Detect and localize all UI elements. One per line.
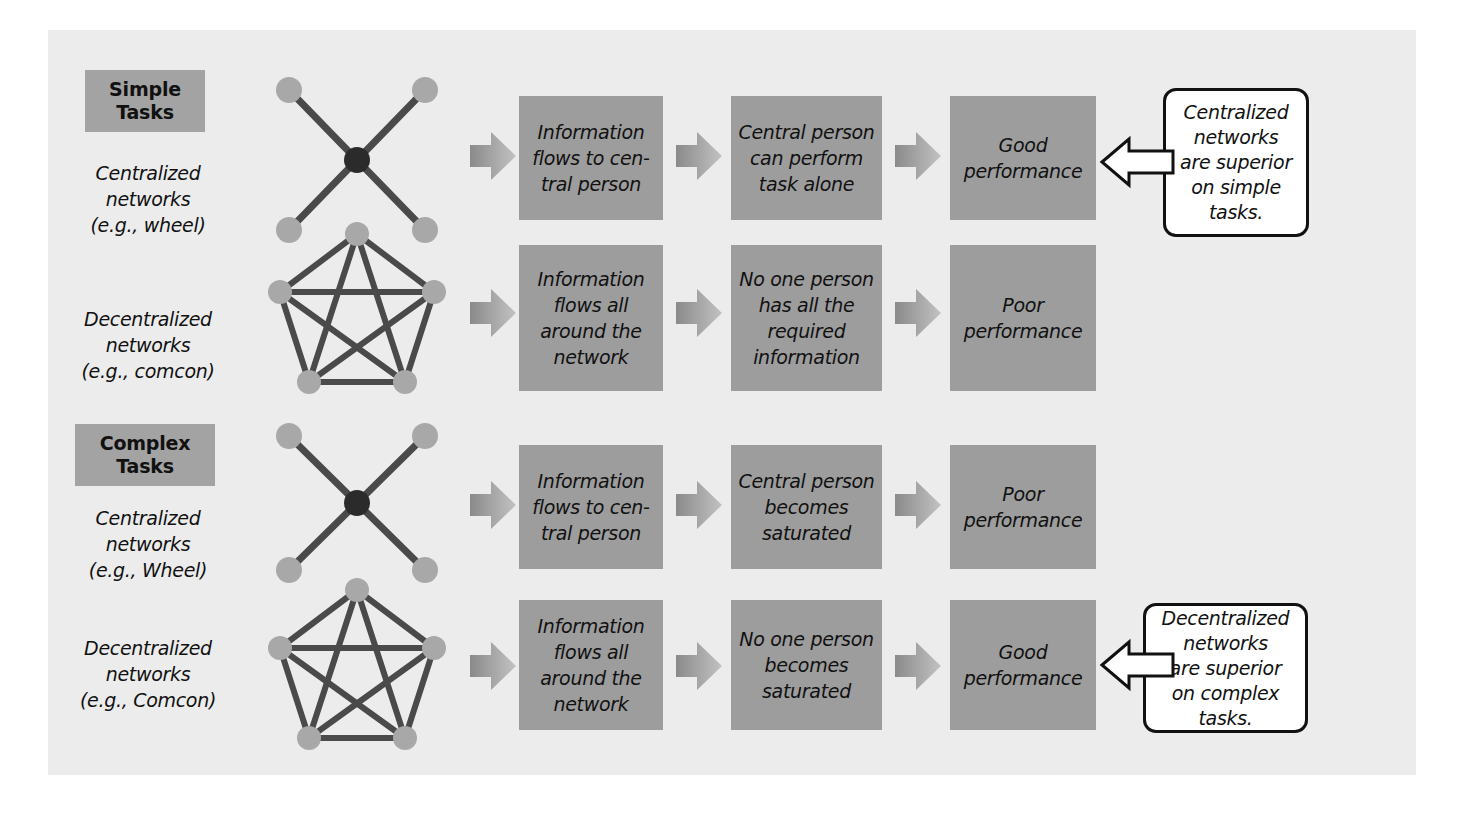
process-box-r3-s1-l1: Information bbox=[525, 468, 657, 494]
process-box-r2-s1-l4: network bbox=[525, 344, 657, 370]
process-box-r2-s3-l2: performance bbox=[956, 318, 1090, 344]
process-box-r1-s1-l3: tral person bbox=[525, 171, 657, 197]
process-box-r4-s1-l1: Information bbox=[525, 613, 657, 639]
process-box-r3-s3: Poor performance bbox=[950, 445, 1096, 569]
badge-simple-tasks-line1: Simple bbox=[109, 78, 181, 101]
process-box-r1-s2-l3: task alone bbox=[737, 171, 876, 197]
chevron-right-arrow-icon bbox=[674, 285, 724, 341]
chevron-right-arrow-icon bbox=[468, 285, 518, 341]
process-box-r4-s1: Information flows all around the network bbox=[519, 600, 663, 730]
badge-complex-tasks-line1: Complex bbox=[100, 432, 191, 455]
label-centralized-simple-line3: (e.g., wheel) bbox=[55, 212, 241, 238]
chevron-right-arrow-icon bbox=[893, 128, 943, 184]
process-box-r2-s2: No one person has all the required infor… bbox=[731, 245, 882, 391]
label-decentralized-complex-line3: (e.g., Comcon) bbox=[45, 687, 251, 713]
process-box-r2-s2-l4: information bbox=[737, 344, 876, 370]
process-box-r2-s3: Poor performance bbox=[950, 245, 1096, 391]
process-box-r4-s3-l2: performance bbox=[956, 665, 1090, 691]
callout-complex-l5: tasks. bbox=[1154, 706, 1297, 731]
process-box-r1-s2: Central person can perform task alone bbox=[731, 96, 882, 220]
process-box-r3-s2-l2: becomes bbox=[737, 494, 876, 520]
callout-complex-l3: are superior bbox=[1154, 656, 1297, 681]
process-box-r1-s2-l2: can perform bbox=[737, 145, 876, 171]
label-decentralized-simple: Decentralized networks (e.g., comcon) bbox=[45, 306, 251, 384]
process-box-r3-s2-l1: Central person bbox=[737, 468, 876, 494]
chevron-right-arrow-icon bbox=[674, 477, 724, 533]
process-box-r1-s1-l1: Information bbox=[525, 119, 657, 145]
chevron-right-arrow-icon bbox=[674, 638, 724, 694]
label-centralized-complex-line1: Centralized bbox=[55, 505, 241, 531]
process-box-r2-s1-l1: Information bbox=[525, 266, 657, 292]
label-centralized-complex-line3: (e.g., Wheel) bbox=[55, 557, 241, 583]
label-decentralized-simple-line2: networks bbox=[45, 332, 251, 358]
process-box-r3-s3-l1: Poor bbox=[956, 481, 1090, 507]
process-box-r2-s1-l3: around the bbox=[525, 318, 657, 344]
callout-simple-l3: are superior bbox=[1174, 150, 1298, 175]
process-box-r4-s2-l3: saturated bbox=[737, 678, 876, 704]
arrow-left-icon bbox=[1099, 634, 1175, 696]
process-box-r4-s1-l3: around the bbox=[525, 665, 657, 691]
process-box-r1-s3-l1: Good bbox=[956, 132, 1090, 158]
comcon-network-icon bbox=[262, 222, 452, 397]
process-box-r4-s1-l4: network bbox=[525, 691, 657, 717]
label-decentralized-complex-line1: Decentralized bbox=[45, 635, 251, 661]
label-decentralized-complex: Decentralized networks (e.g., Comcon) bbox=[45, 635, 251, 713]
process-box-r3-s2-l3: saturated bbox=[737, 520, 876, 546]
process-box-r2-s2-l3: required bbox=[737, 318, 876, 344]
process-box-r1-s3-l2: performance bbox=[956, 158, 1090, 184]
process-box-r3-s1-l2: flows to cen- bbox=[525, 494, 657, 520]
process-box-r4-s3-l1: Good bbox=[956, 639, 1090, 665]
label-centralized-simple-line2: networks bbox=[55, 186, 241, 212]
process-box-r4-s1-l2: flows all bbox=[525, 639, 657, 665]
callout-simple-l2: networks bbox=[1174, 125, 1298, 150]
wheel-network-icon bbox=[262, 418, 452, 588]
process-box-r2-s1-l2: flows all bbox=[525, 292, 657, 318]
diagram-canvas: Simple Tasks Centralized networks (e.g.,… bbox=[0, 0, 1463, 833]
badge-complex-tasks: Complex Tasks bbox=[75, 424, 215, 486]
process-box-r3-s3-l2: performance bbox=[956, 507, 1090, 533]
process-box-r2-s3-l1: Poor bbox=[956, 292, 1090, 318]
process-box-r1-s1: Information flows to cen- tral person bbox=[519, 96, 663, 220]
chevron-right-arrow-icon bbox=[893, 477, 943, 533]
process-box-r3-s1-l3: tral person bbox=[525, 520, 657, 546]
comcon-network-icon bbox=[262, 578, 452, 753]
process-box-r4-s2-l1: No one person bbox=[737, 626, 876, 652]
label-decentralized-simple-line1: Decentralized bbox=[45, 306, 251, 332]
callout-complex-l4: on complex bbox=[1154, 681, 1297, 706]
process-box-r2-s2-l1: No one person bbox=[737, 266, 876, 292]
process-box-r3-s1: Information flows to cen- tral person bbox=[519, 445, 663, 569]
label-centralized-complex: Centralized networks (e.g., Wheel) bbox=[55, 505, 241, 583]
process-box-r1-s3: Good performance bbox=[950, 96, 1096, 220]
callout-simple-l5: tasks. bbox=[1174, 200, 1298, 225]
process-box-r4-s2-l2: becomes bbox=[737, 652, 876, 678]
chevron-right-arrow-icon bbox=[893, 638, 943, 694]
callout-simple: Centralized networks are superior on sim… bbox=[1163, 88, 1309, 237]
label-decentralized-complex-line2: networks bbox=[45, 661, 251, 687]
process-box-r1-s2-l1: Central person bbox=[737, 119, 876, 145]
chevron-right-arrow-icon bbox=[893, 285, 943, 341]
badge-complex-tasks-line2: Tasks bbox=[100, 455, 191, 478]
process-box-r2-s1: Information flows all around the network bbox=[519, 245, 663, 391]
process-box-r1-s1-l2: flows to cen- bbox=[525, 145, 657, 171]
label-centralized-complex-line2: networks bbox=[55, 531, 241, 557]
process-box-r4-s2: No one person becomes saturated bbox=[731, 600, 882, 730]
process-box-r3-s2: Central person becomes saturated bbox=[731, 445, 882, 569]
arrow-left-icon bbox=[1099, 131, 1175, 193]
process-box-r4-s3: Good performance bbox=[950, 600, 1096, 730]
badge-simple-tasks: Simple Tasks bbox=[85, 70, 205, 132]
chevron-right-arrow-icon bbox=[674, 128, 724, 184]
process-box-r2-s2-l2: has all the bbox=[737, 292, 876, 318]
chevron-right-arrow-icon bbox=[468, 638, 518, 694]
chevron-right-arrow-icon bbox=[468, 477, 518, 533]
callout-simple-l4: on simple bbox=[1174, 175, 1298, 200]
badge-simple-tasks-line2: Tasks bbox=[109, 101, 181, 124]
callout-complex-l2: networks bbox=[1154, 631, 1297, 656]
label-decentralized-simple-line3: (e.g., comcon) bbox=[45, 358, 251, 384]
callout-simple-l1: Centralized bbox=[1174, 100, 1298, 125]
label-centralized-simple-line1: Centralized bbox=[55, 160, 241, 186]
callout-complex-l1: Decentralized bbox=[1154, 606, 1297, 631]
label-centralized-simple: Centralized networks (e.g., wheel) bbox=[55, 160, 241, 238]
chevron-right-arrow-icon bbox=[468, 128, 518, 184]
